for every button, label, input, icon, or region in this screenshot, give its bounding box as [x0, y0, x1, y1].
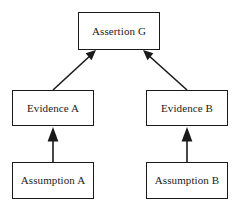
node-label: Assumption A	[21, 175, 85, 186]
edge-line	[53, 54, 92, 90]
node-label: Evidence B	[161, 103, 213, 114]
edge-line	[147, 54, 187, 90]
node-evidence-b[interactable]: Evidence B	[146, 90, 228, 126]
arrowhead-filled-triangle	[48, 127, 59, 142]
node-label: Evidence A	[27, 103, 79, 114]
edge-assumption-b-to-evidence-b	[182, 127, 193, 162]
node-evidence-a[interactable]: Evidence A	[12, 90, 94, 126]
arrowhead-filled-triangle	[182, 127, 193, 142]
node-assertion-g[interactable]: Assertion G	[78, 12, 160, 50]
node-assumption-b[interactable]: Assumption B	[146, 162, 228, 199]
argument-structure-diagram: Assertion G Evidence A Evidence B Assump…	[0, 0, 239, 210]
edge-evidence-b-to-assertion-g	[143, 50, 187, 90]
edge-evidence-a-to-assertion-g	[53, 50, 96, 90]
node-label: Assertion G	[92, 26, 146, 37]
edge-assumption-a-to-evidence-a	[48, 127, 59, 162]
node-assumption-a[interactable]: Assumption A	[12, 162, 94, 199]
node-label: Assumption B	[155, 175, 219, 186]
